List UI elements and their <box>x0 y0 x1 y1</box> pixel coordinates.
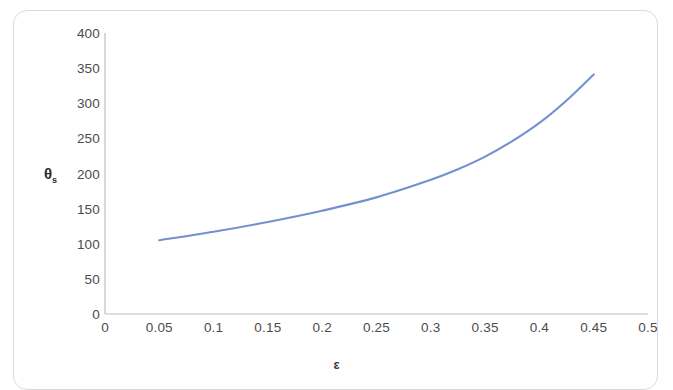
data-series-line <box>159 74 593 240</box>
